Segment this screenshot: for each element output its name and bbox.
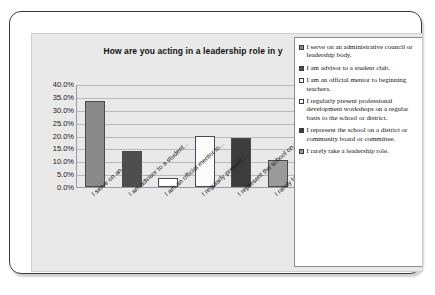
gridline [77,137,296,138]
y-axis-tick-label: 30.0% [34,107,74,115]
gridline [77,124,296,125]
legend-item[interactable]: I rarely take a leadership role. [299,147,419,155]
legend-item[interactable]: I regularly present professional develop… [299,97,419,122]
legend-swatch-icon [299,99,304,104]
chart-legend[interactable]: I serve on an administrative council or … [294,37,423,267]
chart-card[interactable]: How are you acting in a leadership role … [31,33,423,272]
y-axis-tick-label: 15.0% [34,145,74,153]
chart-outer-frame: How are you acting in a leadership role … [9,11,422,274]
x-axis-labels: I serve on an...I am advisor to a studen… [32,188,315,272]
screenshot-root: How are you acting in a leadership role … [0,0,435,295]
chart-title: How are you acting in a leadership role … [68,46,318,56]
legend-item[interactable]: I am advisor to a student club. [299,64,419,72]
legend-label: I rarely take a leadership role. [307,147,389,155]
gridline [77,162,296,163]
legend-label: I am advisor to a student club. [307,64,390,72]
legend-swatch-icon [299,128,304,133]
y-axis-tick-label: 40.0% [34,81,74,89]
gridline [77,149,296,150]
legend-label: I am an official mentor to beginning tea… [307,76,420,93]
legend-swatch-icon [299,149,304,154]
bar-1[interactable] [85,101,105,187]
legend-item[interactable]: I serve on an administrative council or … [299,43,419,60]
gridline [77,98,296,99]
y-axis-tick-label: 5.0% [34,171,74,179]
y-axis: 40.0%35.0%30.0%25.0%20.0%15.0%10.0%5.0%0… [32,81,74,193]
gridline [77,111,296,112]
legend-label: I regularly present professional develop… [307,97,420,122]
legend-item[interactable]: I represent the school on a district or … [299,126,419,143]
legend-swatch-icon [299,45,304,50]
legend-swatch-icon [299,78,304,83]
y-axis-tick-label: 10.0% [34,158,74,166]
legend-label: I serve on an administrative council or … [307,43,420,60]
y-axis-tick-label: 35.0% [34,94,74,102]
y-axis-tick-label: 20.0% [34,133,74,141]
y-axis-tick-label: 25.0% [34,120,74,128]
gridline [77,85,296,86]
legend-label: I represent the school on a district or … [307,126,420,143]
legend-item[interactable]: I am an official mentor to beginning tea… [299,76,419,93]
legend-swatch-icon [299,66,304,71]
